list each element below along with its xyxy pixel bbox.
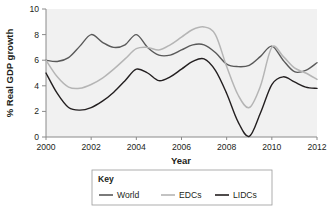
y-tick-label: 6 (34, 55, 39, 65)
x-tick-label: 2000 (36, 142, 55, 152)
x-tick-label: 2010 (262, 142, 281, 152)
y-tick-label: 2 (34, 106, 39, 116)
y-tick-label: 10 (29, 4, 39, 14)
x-axis-label: Year (171, 155, 191, 166)
y-tick-label: 0 (34, 132, 39, 142)
legend-label-world: World (117, 190, 140, 200)
y-axis-label: % Real GDP growth (4, 29, 15, 118)
legend-title: Key (98, 174, 114, 184)
chart-canvas: 0246810 2000200220042006200820102012 % R… (0, 0, 330, 211)
x-tick-label: 2002 (82, 142, 101, 152)
legend-label-edcs: EDCs (179, 190, 201, 200)
legend-label-lidcs: LIDCs (233, 190, 257, 200)
y-tick-label: 4 (34, 81, 39, 91)
plot-area-background (46, 9, 317, 137)
x-tick-label: 2004 (127, 142, 146, 152)
x-axis-tick-labels: 2000200220042006200820102012 (36, 142, 326, 152)
x-tick-label: 2008 (217, 142, 236, 152)
x-tick-label: 2012 (307, 142, 326, 152)
y-tick-label: 8 (34, 30, 39, 40)
y-axis-tick-labels: 0246810 (29, 4, 39, 142)
x-tick-label: 2006 (172, 142, 191, 152)
gdp-growth-chart-figure: 0246810 2000200220042006200820102012 % R… (0, 0, 330, 211)
